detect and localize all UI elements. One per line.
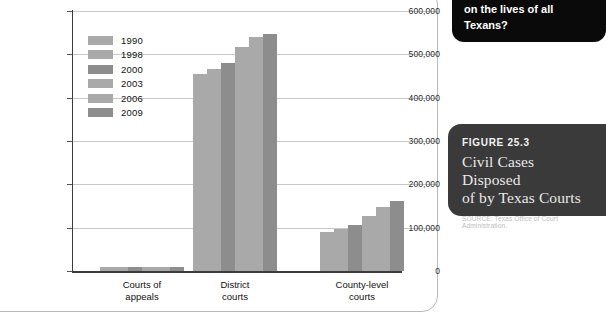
legend-label: 1990 [121,35,143,46]
bar [156,267,170,271]
bar-chart: 0100,000200,000300,000400,000500,000600,… [0,0,440,312]
bar [334,229,348,271]
legend-item: 2003 [88,77,143,92]
y-tick-label: 200,000 [376,179,440,189]
y-tick-label: 500,000 [376,49,440,59]
bar [142,267,156,271]
y-tick-label: 600,000 [376,6,440,16]
bar [128,267,142,271]
figure-number: FIGURE 25.3 [462,137,594,148]
legend-swatch [88,36,113,45]
bar-group [100,267,184,271]
legend-swatch [88,50,113,59]
legend-label: 2009 [121,107,143,118]
figure-title-line-1: Civil Cases Disposed [462,153,534,188]
bar [362,216,376,271]
category-label: Districtcourts [185,279,285,303]
category-label-line-2: courts [312,291,412,303]
legend-label: 2000 [121,64,143,75]
legend-label: 2006 [121,93,143,104]
bar [114,267,128,271]
bar [320,232,334,271]
bar [390,201,404,271]
figure-caption-box: FIGURE 25.3 Civil Cases Disposed of by T… [448,124,606,216]
callout-text: on the lives of all Texans? [464,2,598,33]
category-label-line-2: appeals [92,291,192,303]
legend-item: 1990 [88,33,143,48]
legend-swatch [88,79,113,88]
legend-label: 2003 [121,78,143,89]
bar-group [320,201,404,271]
bar [376,207,390,271]
y-tick-label: 400,000 [376,93,440,103]
y-axis-line [72,10,73,272]
x-axis-line [72,271,402,273]
bar [263,34,277,271]
bar [235,47,249,271]
figure-source: SOURCE: Texas Office of Court Administra… [462,215,594,229]
figure-title: Civil Cases Disposed of by Texas Courts [462,153,594,207]
legend-swatch [88,65,113,74]
category-label-line-1: County-level [312,279,412,291]
bar-group [193,34,277,271]
legend-swatch [88,108,113,117]
legend-item: 2000 [88,62,143,77]
legend-swatch [88,94,113,103]
chart-legend: 199019982000200320062009 [88,33,143,120]
bar [100,267,114,271]
bar [348,225,362,271]
bar [193,74,207,271]
bar [221,63,235,271]
category-label-line-2: courts [185,291,285,303]
bar [170,267,184,271]
legend-item: 2006 [88,91,143,106]
category-label: County-levelcourts [312,279,412,303]
y-tick-label: 300,000 [376,136,440,146]
figure-title-line-2: of by Texas Courts [462,189,581,206]
bar [249,37,263,271]
category-label: Courts ofappeals [92,279,192,303]
category-label-line-1: District [185,279,285,291]
legend-item: 1998 [88,48,143,63]
legend-label: 1998 [121,49,143,60]
legend-item: 2009 [88,106,143,121]
category-label-line-1: Courts of [92,279,192,291]
question-callout: on the lives of all Texans? [452,0,606,42]
bar [207,69,221,271]
